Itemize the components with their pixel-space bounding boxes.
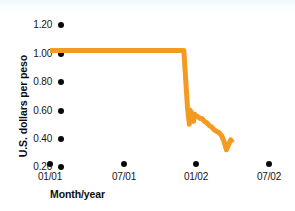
plot-area: [0, 0, 295, 211]
chart-container: U.S. dollars per peso 1.20 1.00 0.80 0.6…: [0, 0, 295, 211]
data-series-line: [50, 50, 233, 149]
